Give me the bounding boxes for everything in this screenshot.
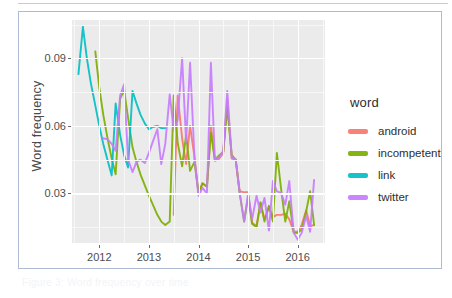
x-tick-label: 2013 [137,251,161,263]
gridline-vertical-major [99,20,100,243]
legend-item-incompetent[interactable]: incompetent [348,142,452,164]
x-tick-mark [298,245,299,248]
gridline-vertical-major [248,20,249,243]
legend-item-label: link [378,169,395,181]
series-line-incompetent [95,52,314,233]
window-top-edge [18,0,448,4]
gridline-vertical-major [298,20,299,243]
x-tick-label: 2014 [186,251,210,263]
y-tick-mark [68,193,71,194]
legend: word androidincompetentlinktwitter [348,95,452,208]
line-chart: Word frequency 0.030.060.09 201220132014… [18,11,442,269]
gridline-vertical-minor [223,20,224,243]
y-tick-mark [68,126,71,127]
legend-item-link[interactable]: link [348,164,452,186]
legend-item-label: twitter [378,191,409,203]
legend-item-twitter[interactable]: twitter [348,186,452,208]
screenshot-stage: Word frequency 0.030.060.09 201220132014… [0,0,452,298]
series-line-twitter [103,58,314,239]
legend-color-swatch [348,173,368,178]
legend-title: word [350,95,452,110]
legend-item-label: android [378,125,416,137]
legend-item-label: incompetent [378,147,441,159]
x-tick-label: 2016 [285,251,309,263]
x-tick-label: 2015 [236,251,260,263]
x-tick-mark [199,245,200,248]
y-tick-label: 0.06 [32,120,66,132]
gridline-vertical-major [149,20,150,243]
legend-item-android[interactable]: android [348,120,452,142]
x-tick-mark [99,245,100,248]
legend-color-swatch [348,195,368,200]
gridline-vertical-major [199,20,200,243]
plot-panel [72,20,325,243]
gridline-vertical-minor [174,20,175,243]
y-tick-mark [68,58,71,59]
legend-color-swatch [348,151,368,156]
figure-caption: Figure 3: Word frequency over time [22,277,442,295]
gridline-vertical-minor [273,20,274,243]
y-tick-label: 0.03 [32,187,66,199]
y-tick-label: 0.09 [32,52,66,64]
gridline-vertical-minor [124,20,125,243]
legend-color-swatch [348,129,368,134]
x-tick-mark [248,245,249,248]
x-tick-label: 2012 [87,251,111,263]
series-line-link [78,27,165,176]
gridline-vertical-minor [74,20,75,243]
gridline-vertical-minor [323,20,324,243]
legend-items: androidincompetentlinktwitter [348,120,452,208]
x-tick-mark [149,245,150,248]
